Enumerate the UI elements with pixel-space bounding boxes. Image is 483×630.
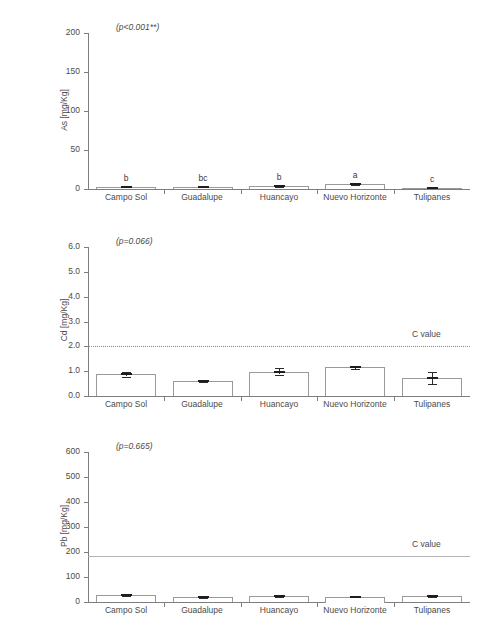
y-axis-tick-label: 0.0: [46, 391, 80, 400]
x-axis-tick-label: Tulipanes: [394, 192, 470, 202]
y-axis-line: [88, 247, 89, 397]
significance-letter: b: [259, 172, 299, 182]
y-axis-tick-label: 600: [46, 447, 80, 456]
significance-letter: b: [106, 173, 146, 183]
significance-letter: c: [412, 174, 452, 184]
error-bar-cap-bottom: [199, 598, 208, 599]
x-axis-tick-label: Campo Sol: [88, 192, 164, 202]
y-axis-tick-label: 0: [46, 184, 80, 193]
mean-marker: [198, 380, 209, 382]
x-axis-tick-label: Huancayo: [241, 399, 317, 409]
error-bar-cap-bottom: [275, 375, 284, 376]
error-bar-cap-bottom: [122, 377, 131, 378]
significance-letter: a: [335, 170, 375, 180]
y-axis-tick: [84, 72, 88, 73]
x-axis-tick-label: Huancayo: [241, 192, 317, 202]
y-axis-tick: [84, 552, 88, 553]
mean-marker: [427, 187, 438, 189]
error-bar-cap-bottom: [275, 597, 284, 598]
x-axis-tick-label: Guadalupe: [164, 192, 240, 202]
y-axis-tick: [84, 297, 88, 298]
mean-marker: [121, 594, 132, 596]
y-axis-tick: [84, 322, 88, 323]
error-bar-cap-top: [275, 368, 284, 369]
x-axis-line: [88, 189, 470, 190]
bar: [173, 381, 233, 396]
y-axis-tick-label: 0: [46, 597, 80, 606]
mean-marker: [350, 366, 361, 368]
figure-heavy-metals-by-site: 050100150200As [mg/Kg](p<0.001**)bCampo …: [0, 0, 483, 630]
error-bar-cap-bottom: [122, 596, 131, 597]
c-value-label: C value: [412, 539, 441, 549]
y-axis-title: Cd [mg/Kg]: [59, 274, 69, 366]
x-axis-tick-label: Campo Sol: [88, 605, 164, 615]
x-axis-tick-label: Tulipanes: [394, 399, 470, 409]
y-axis-title: Pb [mg/Kg]: [59, 480, 69, 572]
y-axis-tick: [84, 111, 88, 112]
error-bar-cap-bottom: [275, 187, 284, 188]
error-bar-cap-bottom: [428, 597, 437, 598]
x-axis-line: [88, 396, 470, 397]
y-axis-tick: [84, 33, 88, 34]
y-axis-tick: [84, 396, 88, 397]
p-value-annotation: (p<0.001**): [116, 22, 159, 32]
y-axis-tick-label: 1.0: [46, 366, 80, 375]
error-bar-cap-top: [428, 372, 437, 373]
x-axis-tick-label: Guadalupe: [164, 399, 240, 409]
x-axis-tick-label: Campo Sol: [88, 399, 164, 409]
mean-marker: [350, 596, 361, 598]
mean-marker: [427, 595, 438, 597]
x-axis-tick-label: Nuevo Horizonte: [317, 192, 393, 202]
p-value-annotation: (p=0.066): [116, 236, 153, 246]
mean-marker: [427, 377, 438, 379]
mean-marker: [121, 186, 132, 188]
x-axis-tick-label: Nuevo Horizonte: [317, 605, 393, 615]
y-axis-tick-label: 6.0: [46, 242, 80, 251]
y-axis-tick-label: 200: [46, 28, 80, 37]
y-axis-tick: [84, 477, 88, 478]
x-axis-tick-label: Tulipanes: [394, 605, 470, 615]
y-axis-tick: [84, 189, 88, 190]
mean-marker: [274, 185, 285, 187]
y-axis-line: [88, 452, 89, 603]
y-axis-tick: [84, 272, 88, 273]
mean-marker: [274, 371, 285, 373]
y-axis-tick: [84, 247, 88, 248]
p-value-annotation: (p=0.665): [116, 441, 153, 451]
c-value-line: [88, 346, 470, 347]
mean-marker: [121, 373, 132, 375]
mean-marker: [198, 596, 209, 598]
x-axis-tick-label: Huancayo: [241, 605, 317, 615]
bar: [325, 367, 385, 396]
error-bar-cap-bottom: [351, 369, 360, 370]
x-axis-line: [88, 602, 470, 603]
c-value-line: [88, 556, 470, 557]
y-axis-tick: [84, 502, 88, 503]
mean-marker: [350, 183, 361, 185]
x-axis-tick-label: Guadalupe: [164, 605, 240, 615]
y-axis-tick: [84, 371, 88, 372]
error-bar-cap-bottom: [351, 185, 360, 186]
y-axis-tick: [84, 602, 88, 603]
y-axis-tick-label: 100: [46, 572, 80, 581]
y-axis-title: As [mg/Kg]: [59, 64, 69, 156]
y-axis-tick: [84, 527, 88, 528]
mean-marker: [274, 595, 285, 597]
mean-marker: [198, 186, 209, 188]
y-axis-tick: [84, 452, 88, 453]
y-axis-line: [88, 33, 89, 190]
x-axis-tick-label: Nuevo Horizonte: [317, 399, 393, 409]
c-value-label: C value: [412, 329, 441, 339]
y-axis-tick: [84, 577, 88, 578]
error-bar-cap-bottom: [199, 382, 208, 383]
error-bar-cap-bottom: [428, 384, 437, 385]
significance-letter: bc: [183, 173, 223, 183]
y-axis-tick: [84, 150, 88, 151]
